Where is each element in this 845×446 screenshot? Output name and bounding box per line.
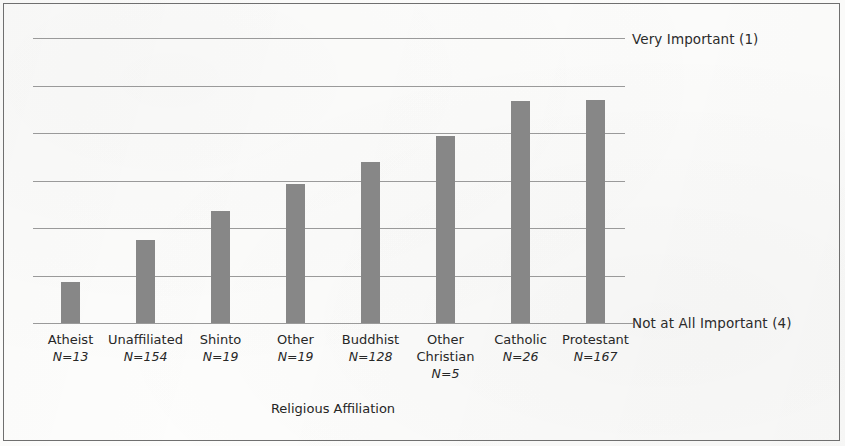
category-sample-size: N=26 bbox=[483, 348, 558, 365]
chart-figure: Very Important (1) Not at All Important … bbox=[0, 0, 845, 446]
category-label-text: Other bbox=[258, 331, 333, 348]
category-label: BuddhistN=128 bbox=[333, 331, 408, 365]
category-sample-size: N=154 bbox=[108, 348, 183, 365]
bar bbox=[136, 240, 155, 323]
category-sample-size: N=13 bbox=[33, 348, 108, 365]
bar bbox=[286, 184, 305, 323]
category-label-text: Atheist bbox=[33, 331, 108, 348]
category-label: AtheistN=13 bbox=[33, 331, 108, 365]
gridline bbox=[33, 133, 625, 134]
category-label-text: Catholic bbox=[483, 331, 558, 348]
category-label: ProtestantN=167 bbox=[558, 331, 633, 365]
bar bbox=[436, 136, 455, 323]
category-label-text: Protestant bbox=[558, 331, 633, 348]
bar bbox=[586, 100, 605, 323]
bar bbox=[361, 162, 380, 323]
category-sample-size: N=19 bbox=[183, 348, 258, 365]
category-label: ShintoN=19 bbox=[183, 331, 258, 365]
gridline bbox=[33, 38, 625, 39]
y-axis-top-label: Very Important (1) bbox=[632, 31, 758, 47]
bar bbox=[211, 211, 230, 323]
category-label: OtherChristianN=5 bbox=[408, 331, 483, 382]
category-sample-size: N=128 bbox=[333, 348, 408, 365]
category-label-text: Shinto bbox=[183, 331, 258, 348]
gridline bbox=[33, 181, 625, 182]
plot-area bbox=[33, 28, 625, 328]
category-label: UnaffiliatedN=154 bbox=[108, 331, 183, 365]
category-label-text: Christian bbox=[408, 348, 483, 365]
gridline bbox=[33, 86, 625, 87]
category-label-text: Buddhist bbox=[333, 331, 408, 348]
axis-baseline bbox=[33, 323, 633, 324]
gridline bbox=[33, 276, 625, 277]
category-label: CatholicN=26 bbox=[483, 331, 558, 365]
category-sample-size: N=5 bbox=[408, 365, 483, 382]
category-sample-size: N=19 bbox=[258, 348, 333, 365]
category-labels-group: AtheistN=13UnaffiliatedN=154ShintoN=19Ot… bbox=[33, 331, 633, 403]
gridline bbox=[33, 228, 625, 229]
bar bbox=[511, 101, 530, 323]
category-label-text: Other bbox=[408, 331, 483, 348]
bar bbox=[61, 282, 80, 323]
x-axis-title: Religious Affiliation bbox=[33, 401, 633, 416]
y-axis-bottom-label: Not at All Important (4) bbox=[632, 315, 792, 331]
category-label: OtherN=19 bbox=[258, 331, 333, 365]
category-sample-size: N=167 bbox=[558, 348, 633, 365]
category-label-text: Unaffiliated bbox=[108, 331, 183, 348]
